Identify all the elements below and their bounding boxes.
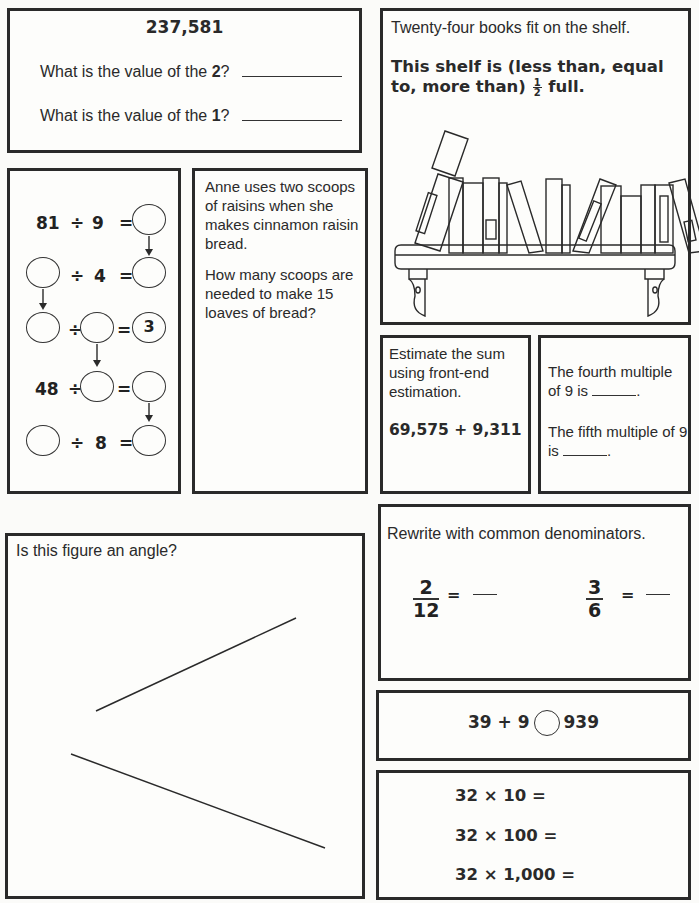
estimate-sum-card: Estimate the sum using front-end estimat… bbox=[380, 335, 531, 494]
compare-right-value: 939 bbox=[564, 712, 600, 732]
compare-card: 39 + 9939 bbox=[376, 690, 691, 761]
upper-line-segment-icon bbox=[96, 618, 296, 711]
estimate-expression: 69,575 + 9,311 bbox=[389, 421, 522, 439]
arrow-down-icon bbox=[145, 236, 153, 256]
flow-arrows bbox=[10, 171, 184, 497]
question-text: The fourth multiple of 9 is bbox=[548, 363, 672, 399]
common-denominators-card: Rewrite with common denominators. 2 12 =… bbox=[378, 504, 691, 681]
place-value-question-2: What is the value of the 1? bbox=[40, 107, 342, 125]
period: . bbox=[636, 382, 640, 399]
arrow-down-icon bbox=[93, 344, 101, 367]
question-text: What is the value of the bbox=[40, 107, 212, 124]
question-digit: 2 bbox=[212, 63, 221, 80]
question-digit: 1 bbox=[212, 107, 221, 124]
question-text: The fifth multiple of 9 is bbox=[548, 423, 687, 459]
answer-blank-fourth[interactable] bbox=[592, 395, 636, 396]
answer-fraction-blank-2[interactable] bbox=[646, 594, 670, 595]
question-mark: ? bbox=[221, 63, 230, 80]
fourth-multiple-question: The fourth multiple of 9 is . bbox=[548, 362, 688, 400]
denominators-instruction: Rewrite with common denominators. bbox=[387, 525, 646, 543]
shelf-bracket-left-icon bbox=[409, 269, 427, 316]
place-value-number: 237,581 bbox=[10, 17, 359, 37]
answer-blank-1[interactable] bbox=[242, 76, 342, 77]
multiply-row-2: 32 × 100 = bbox=[455, 826, 557, 845]
comparison-circle[interactable] bbox=[534, 710, 560, 736]
non-angle-figure bbox=[8, 536, 368, 902]
raisins-paragraph-2: How many scoops are needed to make 15 lo… bbox=[205, 265, 365, 322]
raisins-word-problem-card: Anne uses two scoops of raisins when she… bbox=[192, 168, 368, 494]
books-icon bbox=[415, 131, 699, 253]
fraction-denominator: 6 bbox=[586, 600, 603, 621]
answer-fraction-blank-1[interactable] bbox=[473, 594, 497, 595]
arrow-down-icon bbox=[145, 403, 153, 422]
fifth-multiple-question: The fifth multiple of 9 is . bbox=[548, 422, 688, 460]
raisins-paragraph-1: Anne uses two scoops of raisins when she… bbox=[205, 177, 365, 253]
question-mark: ? bbox=[221, 107, 230, 124]
angle-question-card: Is this figure an angle? bbox=[5, 533, 365, 899]
division-chain-card: 81 ÷ 9 = ÷ 4 = ÷ = 3 48 ÷ = ÷ 8 = bbox=[7, 168, 181, 494]
equals-sign: = bbox=[447, 585, 460, 604]
shelf-bracket-right-icon bbox=[645, 269, 664, 316]
fraction-numerator: 2 bbox=[413, 577, 439, 600]
fraction-numerator: 3 bbox=[586, 577, 603, 600]
compare-left-expression: 39 + 9 bbox=[468, 712, 530, 732]
lower-line-segment-icon bbox=[71, 754, 325, 848]
fraction-denominator: 12 bbox=[413, 600, 439, 621]
multiply-row-3: 32 × 1,000 = bbox=[455, 865, 575, 884]
place-value-card: 237,581 What is the value of the 2? What… bbox=[7, 8, 362, 153]
multiply-by-powers-of-ten-card: 32 × 10 = 32 × 100 = 32 × 1,000 = bbox=[376, 770, 691, 900]
multiples-card: The fourth multiple of 9 is . The fifth … bbox=[538, 335, 691, 494]
answer-blank-2[interactable] bbox=[242, 120, 342, 121]
question-text: What is the value of the bbox=[40, 63, 212, 80]
fraction-3-6: 3 6 bbox=[586, 577, 603, 621]
arrow-down-icon bbox=[39, 289, 47, 310]
place-value-question-1: What is the value of the 2? bbox=[40, 63, 342, 81]
bookshelf-illustration bbox=[383, 11, 694, 328]
equals-sign: = bbox=[621, 585, 634, 604]
multiply-row-1: 32 × 10 = bbox=[455, 786, 546, 805]
period: . bbox=[607, 442, 611, 459]
fraction-2-12: 2 12 bbox=[413, 577, 439, 621]
comparison-row: 39 + 9939 bbox=[379, 710, 688, 736]
answer-blank-fifth[interactable] bbox=[563, 455, 607, 456]
shelf-plank-icon bbox=[395, 245, 675, 269]
estimate-instruction: Estimate the sum using front-end estimat… bbox=[389, 344, 529, 401]
bookshelf-card: Twenty-four books fit on the shelf. This… bbox=[380, 8, 691, 325]
